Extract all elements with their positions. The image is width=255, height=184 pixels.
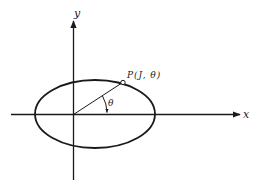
angle-arc xyxy=(103,96,108,113)
angle-theta-label: θ xyxy=(108,98,114,108)
point-p-label: P(J, θ) xyxy=(126,70,161,80)
x-axis-label: x xyxy=(243,108,250,121)
y-axis-label: y xyxy=(73,7,81,20)
radius-line xyxy=(74,84,122,115)
point-p-marker xyxy=(121,80,125,84)
polar-ellipse-diagram: y x P(J, θ) θ xyxy=(0,0,255,184)
